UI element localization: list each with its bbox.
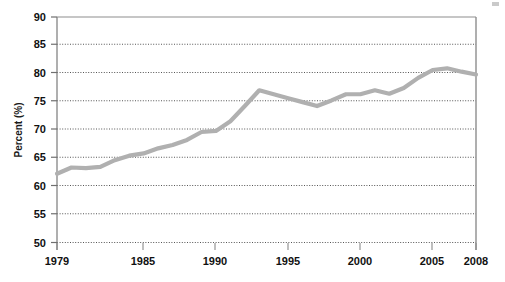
x-tick-labels: 1979 1985 1990 1995 2000 2005 2008 [45, 255, 488, 267]
y-axis-title: Percent (%) [13, 102, 24, 157]
y-tick-label: 85 [34, 38, 46, 50]
y-tick-label: 60 [34, 180, 46, 192]
y-tick-label: 80 [34, 67, 46, 79]
x-tick-label: 2005 [420, 255, 444, 267]
y-tick-label: 70 [34, 123, 46, 135]
x-tick-marks [57, 243, 476, 250]
x-tick-label: 2008 [464, 255, 488, 267]
y-tick-label: 65 [34, 151, 46, 163]
y-tick-label: 75 [34, 95, 46, 107]
y-tick-label: 55 [34, 208, 46, 220]
plot-background [57, 17, 476, 243]
y-tick-labels: 90 85 80 75 70 65 60 55 50 [34, 11, 46, 249]
x-tick-label: 1985 [131, 255, 155, 267]
x-tick-label: 2000 [348, 255, 372, 267]
line-chart: 90 85 80 75 70 65 60 55 50 1979 1985 199… [0, 0, 505, 282]
y-tick-marks [51, 17, 57, 243]
chart-canvas: 90 85 80 75 70 65 60 55 50 1979 1985 199… [0, 0, 505, 282]
x-tick-label: 1990 [203, 255, 227, 267]
x-tick-label: 1995 [276, 255, 300, 267]
x-tick-label: 1979 [45, 255, 69, 267]
y-tick-label: 90 [34, 11, 46, 23]
y-tick-label: 50 [34, 237, 46, 249]
